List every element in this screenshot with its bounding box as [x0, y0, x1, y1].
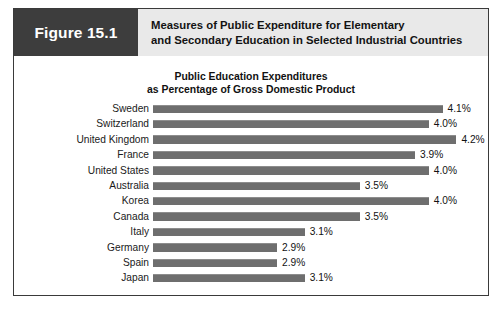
bar-row: Korea4.0%: [14, 193, 488, 208]
bar-row: Australia3.5%: [14, 178, 488, 193]
bar: [153, 243, 277, 251]
bar: [153, 212, 360, 220]
chart-title-line-2: as Percentage of Gross Domestic Product: [14, 83, 488, 96]
bar-value-label: 4.0%: [434, 116, 457, 131]
country-label: Switzerland: [14, 116, 149, 131]
bar: [153, 197, 429, 205]
figure-frame: Figure 15.1 Measures of Public Expenditu…: [13, 8, 489, 296]
chart-title: Public Education Expenditures as Percent…: [14, 70, 488, 96]
bar-row: United States4.0%: [14, 163, 488, 178]
bar: [153, 135, 456, 143]
bar-row: Japan3.1%: [14, 270, 488, 285]
country-label: United States: [14, 163, 149, 178]
bar-value-label: 3.9%: [420, 147, 443, 162]
figure-number-block: Figure 15.1: [14, 9, 138, 56]
country-label: Italy: [14, 224, 149, 239]
bar-track: 4.2%: [153, 132, 488, 147]
bar-track: 3.1%: [153, 224, 488, 239]
figure-number-label: Figure 15.1: [35, 24, 118, 42]
bar-track: 4.0%: [153, 163, 488, 178]
bar-row: Sweden4.1%: [14, 101, 488, 116]
country-label: Australia: [14, 178, 149, 193]
bar: [153, 274, 305, 282]
bar: [153, 259, 277, 267]
bar-track: 3.9%: [153, 147, 488, 162]
bar: [153, 105, 443, 113]
bar-row: Spain2.9%: [14, 255, 488, 270]
country-label: Canada: [14, 209, 149, 224]
country-label: United Kingdom: [14, 132, 149, 147]
country-label: Korea: [14, 193, 149, 208]
bar-value-label: 3.5%: [365, 209, 388, 224]
bar-value-label: 4.2%: [461, 132, 484, 147]
bar-value-label: 2.9%: [282, 255, 305, 270]
figure-title-block: Measures of Public Expenditure for Eleme…: [138, 9, 488, 56]
bar-track: 2.9%: [153, 240, 488, 255]
bar-row: France3.9%: [14, 147, 488, 162]
bar-value-label: 3.5%: [365, 178, 388, 193]
country-label: Germany: [14, 240, 149, 255]
country-label: Spain: [14, 255, 149, 270]
bar: [153, 151, 415, 159]
bar-track: 3.1%: [153, 270, 488, 285]
bar-track: 4.0%: [153, 193, 488, 208]
figure-header: Figure 15.1 Measures of Public Expenditu…: [14, 9, 488, 56]
bar-track: 4.0%: [153, 116, 488, 131]
bar-track: 4.1%: [153, 101, 488, 116]
bar-value-label: 4.0%: [434, 193, 457, 208]
bar-chart-plot: Sweden4.1%Switzerland4.0%United Kingdom4…: [14, 101, 488, 286]
bar-row: Canada3.5%: [14, 209, 488, 224]
bar-track: 3.5%: [153, 178, 488, 193]
country-label: France: [14, 147, 149, 162]
bar-value-label: 3.1%: [310, 224, 333, 239]
bar: [153, 166, 429, 174]
bar-value-label: 4.1%: [448, 101, 471, 116]
bar-row: Germany2.9%: [14, 240, 488, 255]
bar-value-label: 3.1%: [310, 270, 333, 285]
country-label: Japan: [14, 270, 149, 285]
figure-title-line-1: Measures of Public Expenditure for Eleme…: [151, 18, 482, 33]
bar: [153, 182, 360, 190]
bar-value-label: 4.0%: [434, 163, 457, 178]
chart-title-line-1: Public Education Expenditures: [14, 70, 488, 83]
bar: [153, 120, 429, 128]
bar: [153, 228, 305, 236]
bar-track: 2.9%: [153, 255, 488, 270]
country-label: Sweden: [14, 101, 149, 116]
figure-title-line-2: and Secondary Education in Selected Indu…: [151, 33, 482, 48]
chart-area: Public Education Expenditures as Percent…: [14, 56, 488, 295]
bar-value-label: 2.9%: [282, 240, 305, 255]
bar-row: Switzerland4.0%: [14, 116, 488, 131]
bar-row: Italy3.1%: [14, 224, 488, 239]
bar-track: 3.5%: [153, 209, 488, 224]
bar-row: United Kingdom4.2%: [14, 132, 488, 147]
